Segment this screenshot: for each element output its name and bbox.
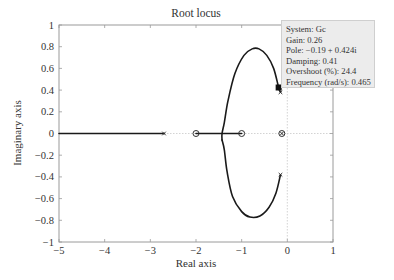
y-tick-label: −0.6 bbox=[35, 193, 54, 204]
chart-title: Root locus bbox=[171, 7, 221, 19]
x-tick-label: 1 bbox=[330, 245, 335, 256]
y-tick-label: −0.8 bbox=[35, 215, 54, 226]
x-tick-label: −5 bbox=[53, 245, 64, 256]
tooltip-damping: Damping: 0.41 bbox=[286, 56, 374, 67]
y-tick-label: 1 bbox=[49, 20, 54, 31]
y-tick-label: 0.8 bbox=[41, 41, 54, 52]
tooltip-frequency: Frequency (rad/s): 0.465 bbox=[286, 77, 374, 88]
y-tick-label: −0.4 bbox=[35, 171, 55, 182]
x-tick-label: −2 bbox=[190, 245, 201, 256]
tooltip-system: System: Gc bbox=[286, 24, 374, 35]
tooltip-pole: Pole: −0.19 + 0.424i bbox=[286, 45, 374, 56]
y-tick-label: 0 bbox=[49, 128, 54, 139]
y-axis-label: Imaginary axis bbox=[11, 100, 23, 166]
y-tick-label: 0.4 bbox=[41, 85, 55, 96]
x-tick-label: −1 bbox=[236, 245, 247, 256]
y-tick-label: 0.6 bbox=[41, 63, 54, 74]
x-tick-label: −3 bbox=[145, 245, 156, 256]
x-tick-label: 0 bbox=[285, 245, 290, 256]
y-tick-label: −1 bbox=[43, 237, 54, 248]
tooltip-gain: Gain: 0.26 bbox=[286, 35, 374, 46]
datatip-tooltip: System: Gc Gain: 0.26 Pole: −0.19 + 0.42… bbox=[281, 20, 375, 88]
tooltip-overshoot: Overshoot (%): 24.4 bbox=[286, 66, 374, 77]
x-axis-label: Real axis bbox=[176, 257, 217, 269]
y-tick-label: −0.2 bbox=[35, 150, 54, 161]
x-tick-label: −4 bbox=[99, 245, 111, 256]
y-tick-label: 0.2 bbox=[41, 106, 54, 117]
